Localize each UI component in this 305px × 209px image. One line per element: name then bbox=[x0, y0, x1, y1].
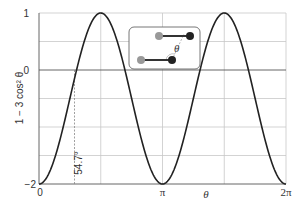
x-tick-0: 0 bbox=[37, 187, 43, 198]
inset-theta-label: θ bbox=[174, 42, 180, 54]
dipole-bottom-negative bbox=[168, 56, 176, 64]
x-axis-label: θ bbox=[203, 188, 209, 200]
y-tick-minus2: −2 bbox=[25, 179, 37, 190]
angle-label: 54.7° bbox=[73, 151, 84, 174]
y-axis-label: 1 − 3 cos² θ bbox=[14, 71, 25, 124]
dipole-top-positive bbox=[155, 32, 163, 40]
dipole-top-negative bbox=[186, 32, 194, 40]
x-tick-2pi: 2π bbox=[280, 186, 292, 198]
dipole-bottom-positive bbox=[137, 56, 145, 64]
x-tick-pi: π bbox=[160, 186, 166, 198]
inset: θ bbox=[129, 27, 200, 69]
y-tick-1: 1 bbox=[23, 8, 29, 19]
chart: θ 1 0 −2 0 π 2π θ 1 − 3 cos² θ 54.7° bbox=[0, 0, 305, 209]
